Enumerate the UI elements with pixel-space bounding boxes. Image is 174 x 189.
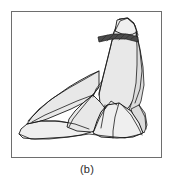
figure-frame-border bbox=[11, 11, 162, 158]
rock-shapes-group bbox=[19, 18, 147, 139]
rock-formation-drawing bbox=[12, 12, 161, 157]
shape-summit-cap bbox=[115, 18, 137, 35]
figure-caption: (b) bbox=[0, 163, 174, 175]
figure-panel: (b) bbox=[0, 0, 174, 189]
